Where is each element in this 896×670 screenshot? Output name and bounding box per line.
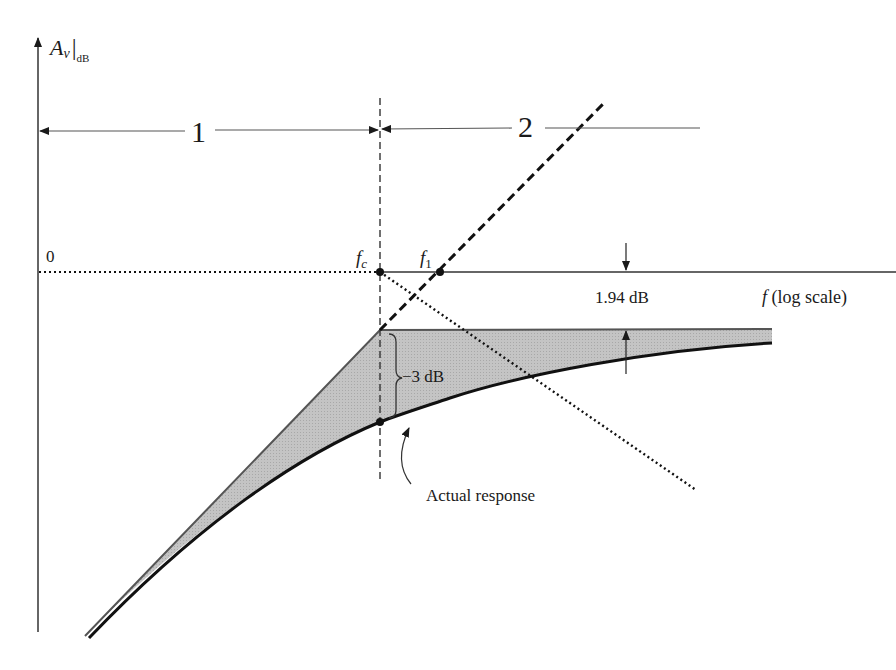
region-2-label: 2: [518, 110, 533, 144]
fc-point: [376, 268, 384, 276]
bode-plot-canvas: [0, 0, 896, 670]
y-axis-label: Av|dB: [50, 34, 89, 64]
f1-point: [436, 268, 444, 276]
actual-response-pointer: [401, 428, 411, 484]
y-axis-label-main: A: [50, 35, 63, 60]
f1-label: f1: [420, 247, 432, 272]
actual-response-label: Actual response: [426, 486, 535, 506]
y-axis-label-sub: v: [63, 46, 69, 61]
fc-actual-point: [376, 418, 384, 426]
deviation-minus-3db-label: −3 dB: [402, 367, 444, 387]
x-axis-label-text: (log scale): [767, 287, 847, 307]
f1-label-sub: 1: [425, 256, 432, 271]
y-axis-label-unit: dB: [76, 52, 89, 64]
deviation-1-94db-label: 1.94 dB: [595, 288, 649, 308]
x-axis-label: f (log scale): [762, 287, 847, 308]
region-2-arrow-left: [382, 128, 512, 129]
region-1-label: 1: [191, 115, 206, 149]
fc-label-sub: c: [361, 256, 367, 271]
fc-label: fc: [356, 247, 367, 272]
origin-label: 0: [46, 247, 55, 267]
